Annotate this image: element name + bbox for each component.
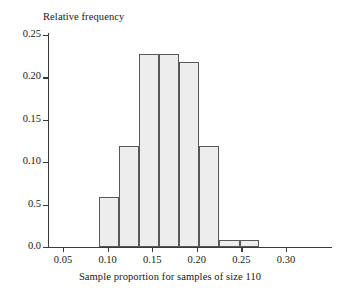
x-axis-tick-label: 0.10 [98,254,116,265]
y-axis-title: Relative frequency [43,11,124,22]
histogram-bar [139,54,160,247]
histogram-bar [179,62,200,247]
x-axis-title: Sample proportion for samples of size 11… [0,271,340,282]
histogram-figure: Relative frequency 0.250.200.150.100.50.… [0,0,340,296]
histogram-bar [219,240,240,247]
histogram-bar [159,54,179,247]
histogram-bar [240,240,260,247]
x-axis-tick [108,247,109,252]
x-axis-tick-label: 0.25 [232,254,250,265]
x-axis-tick-label: 0.15 [143,254,161,265]
y-axis-tick: 0.0 [43,247,48,248]
x-axis-tick-label: 0.30 [277,254,295,265]
x-axis-tick-label: 0.05 [54,254,72,265]
x-axis-tick [197,247,198,252]
x-axis-tick [286,247,287,252]
x-axis-tick-label: 0.20 [188,254,206,265]
x-axis-tick [241,247,242,252]
x-axis-tick [152,247,153,252]
histogram-bars [0,35,340,247]
histogram-bar [199,146,219,247]
histogram-bar [119,146,139,247]
histogram-bar [99,197,120,247]
x-axis-tick [63,247,64,252]
